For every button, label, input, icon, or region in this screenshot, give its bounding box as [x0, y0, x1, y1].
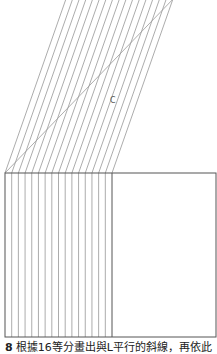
diagonal-line: [65, 0, 127, 173]
diagonal-line: [85, 0, 147, 173]
diagonal-line: [5, 0, 67, 173]
diagonal-line: [25, 0, 87, 173]
diagonal-line: [105, 0, 167, 173]
diagonal-line: [52, 0, 114, 173]
step-caption: 8根據16等分畫出與L平行的斜線，再依此: [5, 341, 212, 354]
diagonal-line: [99, 0, 161, 173]
diagonal-line: [45, 0, 107, 173]
step-number: 8: [5, 341, 13, 354]
diagonal-line: [32, 0, 94, 173]
diagonal-line: [79, 0, 141, 173]
vertical-division-lines: [12, 173, 112, 337]
diagonal-line: [59, 0, 121, 173]
step-text: 根據16等分畫出與L平行的斜線，再依此: [16, 341, 212, 354]
diagonal-line: [18, 0, 80, 173]
diagonal-line: [12, 0, 74, 173]
label-c: C: [110, 96, 116, 105]
pattern-rectangle: [5, 173, 216, 337]
diagonal-line: [112, 0, 174, 173]
diagonal-line: [92, 0, 154, 173]
diagonal-line: [72, 0, 134, 173]
diagonal-line: [38, 0, 100, 173]
pattern-division-diagram: C: [0, 0, 217, 340]
